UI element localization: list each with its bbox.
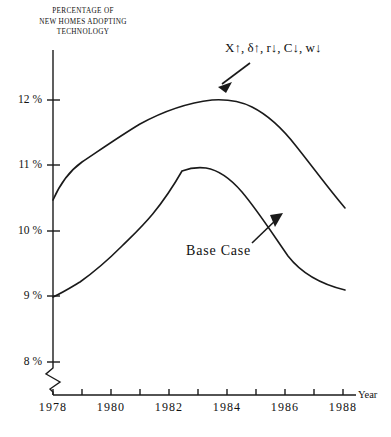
x-tick-label-1988: 1988 [315,400,371,415]
y-tick-label-10: 10 % [0,224,42,236]
chart-plot-svg [0,0,391,437]
x-tick-label-1986: 1986 [257,400,313,415]
y-tick-label-9: 9 % [0,289,42,301]
series-line-base-case [53,168,345,297]
y-tick-label-8: 8 % [0,355,42,367]
annotation-base-case-label: Base Case [186,243,251,259]
x-axis-ticks [53,389,343,395]
series-line-upper [53,100,345,208]
y-tick-label-11: 11 % [0,158,42,170]
x-tick-label-1982: 1982 [141,400,197,415]
chart-figure: PERCENTAGE OF NEW HOMES ADOPTING TECHNOL… [0,0,391,437]
x-tick-label-1980: 1980 [83,400,139,415]
annotation-upper-label: X↑, δ↑, r↓, C↓, w↓ [225,40,321,56]
annotation-arrow-lower [252,213,283,243]
x-tick-label-1984: 1984 [199,400,255,415]
y-tick-label-12: 12 % [0,93,42,105]
annotation-arrow-upper [218,63,250,93]
x-tick-label-1978: 1978 [25,400,81,415]
x-axis-title: Year [358,389,377,400]
